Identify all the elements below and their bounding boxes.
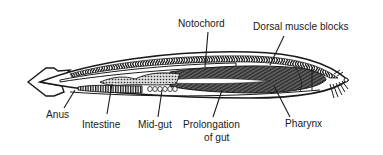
label-intestine: Intestine bbox=[82, 118, 120, 131]
label-pharynx: Pharynx bbox=[285, 117, 322, 130]
intestine bbox=[78, 85, 142, 93]
mouth bbox=[344, 78, 348, 82]
lancelet-diagram: Notochord Dorsal muscle blocks Anus Inte… bbox=[0, 0, 383, 155]
leader-anus bbox=[64, 90, 75, 108]
label-prolongation-line2: of gut bbox=[204, 131, 229, 144]
label-dorsal-muscle-blocks: Dorsal muscle blocks bbox=[253, 20, 349, 33]
label-anus: Anus bbox=[46, 108, 69, 121]
label-notochord: Notochord bbox=[178, 17, 225, 30]
label-prolongation-line1: Prolongation bbox=[183, 118, 240, 131]
label-mid-gut: Mid-gut bbox=[138, 118, 172, 131]
